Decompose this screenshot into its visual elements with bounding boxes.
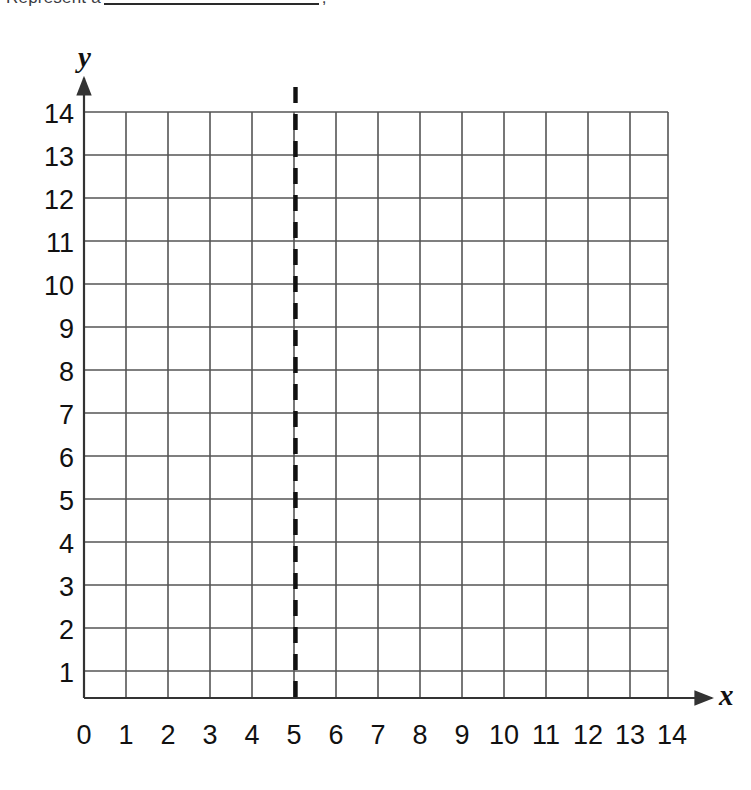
grid-vertical-lines <box>84 112 668 698</box>
axis-lines <box>84 78 712 698</box>
grid-svg <box>0 0 751 790</box>
coordinate-grid-plot: y x 14 13 12 11 10 9 8 7 6 5 4 3 2 1 0 1… <box>0 0 751 790</box>
grid-horizontal-lines <box>84 112 668 671</box>
